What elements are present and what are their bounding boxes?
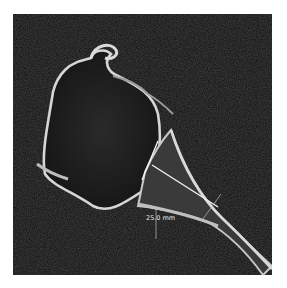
ct-scan-image	[13, 14, 272, 275]
measurement-label: 25.0 mm	[146, 214, 175, 222]
scan-graphic	[13, 14, 272, 275]
